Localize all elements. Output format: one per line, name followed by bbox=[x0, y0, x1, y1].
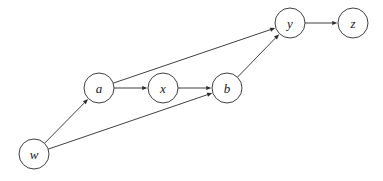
arrowhead-icon bbox=[142, 86, 147, 90]
graph-node-a[interactable]: a bbox=[84, 73, 114, 103]
graph-node-x[interactable]: x bbox=[148, 73, 178, 103]
graph-node-label-x: x bbox=[159, 81, 166, 96]
graph-node-b[interactable]: b bbox=[212, 73, 242, 103]
graph-node-y[interactable]: y bbox=[275, 8, 305, 38]
graph-edge-a-to-x bbox=[114, 86, 147, 90]
node-layer: waxbyz bbox=[19, 8, 368, 169]
arrowhead-icon bbox=[206, 86, 211, 90]
graph-node-z[interactable]: z bbox=[338, 8, 368, 38]
arrowhead-icon bbox=[270, 28, 276, 32]
graph-edge-x-to-b bbox=[178, 86, 211, 90]
arrowhead-icon bbox=[332, 21, 337, 25]
graph-edge-w-to-b bbox=[48, 93, 212, 149]
directed-graph: waxbyz bbox=[0, 0, 383, 181]
graph-edge-y-to-z bbox=[305, 21, 337, 25]
graph-node-w[interactable]: w bbox=[19, 139, 49, 169]
graph-node-label-b: b bbox=[224, 81, 231, 96]
graph-edge-a-to-y bbox=[113, 28, 275, 83]
graph-edge-w-to-a bbox=[45, 99, 89, 143]
graph-node-label-y: y bbox=[285, 16, 293, 31]
graph-node-label-a: a bbox=[96, 81, 103, 96]
graph-node-label-z: z bbox=[349, 16, 355, 31]
arrowhead-icon bbox=[207, 93, 213, 97]
graph-node-label-w: w bbox=[30, 147, 39, 162]
diagram-canvas: waxbyz bbox=[0, 0, 383, 181]
graph-edge-b-to-y bbox=[237, 34, 279, 77]
